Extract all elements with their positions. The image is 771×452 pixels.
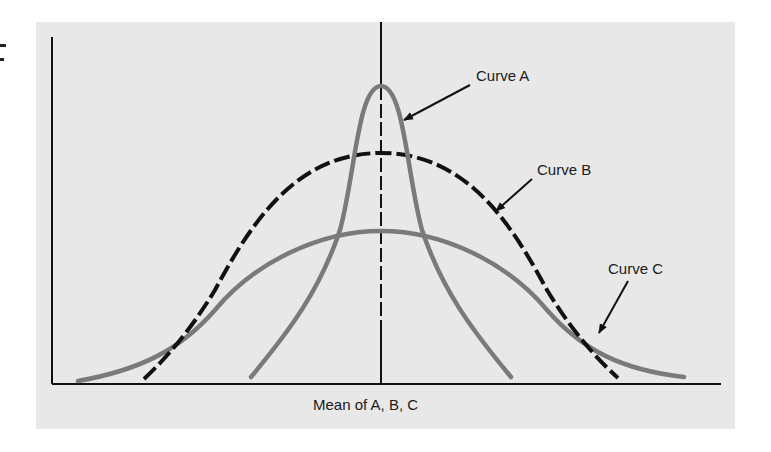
curve-b-label: Curve B xyxy=(537,161,591,178)
x-axis-label: Mean of A, B, C xyxy=(313,396,418,413)
arrow-curve-b xyxy=(496,179,532,211)
distribution-curves-diagram xyxy=(0,0,771,452)
curve-a-label: Curve A xyxy=(476,67,529,84)
arrow-curve-c xyxy=(599,281,628,333)
arrow-curve-a xyxy=(404,85,470,120)
curve-c-label: Curve C xyxy=(608,260,663,277)
